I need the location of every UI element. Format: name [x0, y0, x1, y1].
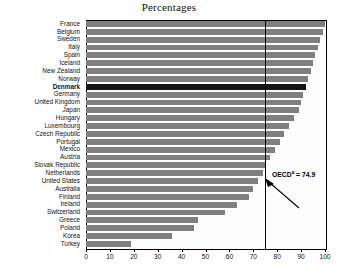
- x-tick-label: 80: [274, 253, 281, 260]
- bar: [86, 92, 303, 98]
- category-label: Turkey: [0, 240, 83, 248]
- bar: [86, 241, 131, 247]
- bar-row: [86, 67, 325, 75]
- bar-row: [86, 216, 325, 224]
- bar: [86, 170, 263, 176]
- bar: [86, 147, 275, 153]
- bar: [86, 115, 294, 121]
- x-tick-mark: [182, 249, 183, 252]
- x-tick-mark: [110, 249, 111, 252]
- reference-label-value: = 74.9: [296, 171, 315, 178]
- x-tick-mark: [134, 249, 135, 252]
- bar-row: [86, 122, 325, 130]
- bar: [86, 123, 289, 129]
- x-axis: 0102030405060708090100: [86, 249, 325, 273]
- bar: [86, 162, 265, 168]
- bar-row: [86, 28, 325, 36]
- x-tick-mark: [277, 249, 278, 252]
- bar: [86, 84, 306, 90]
- category-label: United States: [0, 177, 83, 185]
- category-axis-labels: FranceBelgiumSwedenItalySpainIcelandNew …: [0, 20, 83, 248]
- category-label: Luxembourg: [0, 122, 83, 130]
- bar-row: [86, 138, 325, 146]
- bar-row: [86, 91, 325, 99]
- x-tick-label: 20: [130, 253, 137, 260]
- bar-row: [86, 51, 325, 59]
- bar-row: [86, 106, 325, 114]
- reference-arrow-icon: [263, 178, 303, 212]
- x-tick-label: 10: [106, 253, 113, 260]
- reference-line: [265, 20, 266, 249]
- bar-row: [86, 99, 325, 107]
- bar: [86, 155, 270, 161]
- x-tick-mark: [325, 249, 326, 252]
- reference-label-superscript: a: [292, 170, 295, 175]
- category-label: Iceland: [0, 59, 83, 67]
- bar-row: [86, 154, 325, 162]
- chart-page: Percentages FranceBelgiumSwedenItalySpai…: [0, 0, 338, 278]
- bar: [86, 107, 299, 113]
- bar: [86, 52, 315, 58]
- x-tick-label: 50: [202, 253, 209, 260]
- bar-row: [86, 59, 325, 67]
- category-label: Korea: [0, 232, 83, 240]
- category-label: Netherlands: [0, 169, 83, 177]
- reference-label-prefix: OECD: [272, 171, 292, 178]
- bar-row: [86, 44, 325, 52]
- category-label: New Zealand: [0, 67, 83, 75]
- x-tick-label: 90: [297, 253, 304, 260]
- bar-series: [86, 20, 325, 248]
- bar: [86, 131, 284, 137]
- bar-row: [86, 146, 325, 154]
- bar-row: [86, 83, 325, 91]
- bar-row: [86, 75, 325, 83]
- bar: [86, 45, 318, 51]
- x-tick-label: 60: [226, 253, 233, 260]
- bar-row: [86, 36, 325, 44]
- bar-row: [86, 161, 325, 169]
- bar: [86, 68, 311, 74]
- bar-row: [86, 130, 325, 138]
- bar: [86, 100, 301, 106]
- x-tick-label: 70: [250, 253, 257, 260]
- category-label: Hungary: [0, 114, 83, 122]
- bar-row: [86, 114, 325, 122]
- bar: [86, 210, 225, 216]
- bar: [86, 76, 308, 82]
- bar-row: [86, 20, 325, 28]
- x-tick-mark: [229, 249, 230, 252]
- chart-title: Percentages: [0, 1, 338, 13]
- x-tick-mark: [253, 249, 254, 252]
- category-label: Norway: [0, 75, 83, 83]
- bar: [86, 217, 198, 223]
- bar-row: [86, 240, 325, 248]
- category-label: Czech Republic: [0, 130, 83, 138]
- x-tick-label: 30: [154, 253, 161, 260]
- x-tick-label: 100: [319, 253, 330, 260]
- bar: [86, 194, 249, 200]
- x-tick-mark: [158, 249, 159, 252]
- bar: [86, 21, 325, 27]
- x-tick-label: 40: [178, 253, 185, 260]
- category-label: France: [0, 20, 83, 28]
- bar: [86, 225, 194, 231]
- x-tick-mark: [301, 249, 302, 252]
- bar: [86, 186, 253, 192]
- bar-row: [86, 224, 325, 232]
- x-tick-label: 0: [84, 253, 88, 260]
- category-label: Australia: [0, 185, 83, 193]
- reference-line-annotation: OECDa = 74.9: [272, 170, 315, 178]
- bar-row: [86, 232, 325, 240]
- bar: [86, 233, 172, 239]
- bar: [86, 29, 323, 35]
- bar: [86, 60, 313, 66]
- bar: [86, 139, 280, 145]
- bar: [86, 202, 237, 208]
- x-tick-mark: [206, 249, 207, 252]
- bar: [86, 37, 320, 43]
- x-tick-mark: [86, 249, 87, 252]
- bar: [86, 178, 258, 184]
